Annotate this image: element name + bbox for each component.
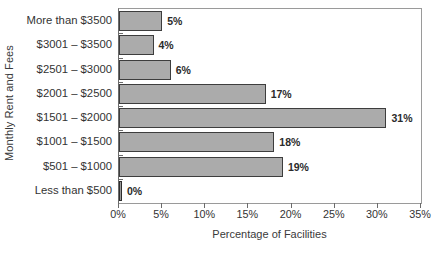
bar-value-label: 5% [167,11,182,31]
category-label: $1501 – $2000 [37,107,112,127]
x-axis-tick-label: 35% [409,208,431,220]
bar-value-label: 31% [391,108,412,128]
bar-value-label: 19% [288,157,309,177]
bar-value-label: 0% [127,181,142,201]
x-axis-tick-labels: 0%5%10%15%20%25%30%35% [118,208,421,224]
bar [119,157,283,177]
bar-value-label: 18% [279,132,300,152]
bar [119,84,266,104]
plot-area: 5%4%6%17%31%18%19%0% [119,9,421,203]
bar-value-label: 17% [271,84,292,104]
bar [119,108,386,128]
x-axis-tick-label: 0% [110,208,126,220]
y-axis-tick [119,179,123,180]
category-label: $3001 – $3500 [37,34,112,54]
x-axis-tick-label: 20% [280,208,302,220]
y-axis-tick [119,33,123,34]
category-label: $501 – $1000 [43,156,112,176]
x-axis-tick-label: 10% [193,208,215,220]
category-label: Less than $500 [35,180,112,200]
bar-value-label: 6% [176,60,191,80]
x-axis-title: Percentage of Facilities [118,228,421,240]
category-axis-labels: More than $3500$3001 – $3500$2501 – $300… [18,8,115,202]
bar [119,181,122,201]
y-axis-tick [119,155,123,156]
x-axis-tick-label: 30% [366,208,388,220]
plot-frame: 5%4%6%17%31%18%19%0% [118,8,422,204]
y-axis-tick [119,58,123,59]
bar [119,132,274,152]
x-axis-tick-label: 25% [323,208,345,220]
y-axis-title: Monthly Rent and Fees [0,0,18,205]
x-axis-tick-label: 5% [153,208,169,220]
bar-chart: Monthly Rent and Fees More than $3500$30… [0,0,442,255]
category-label: $1001 – $1500 [37,131,112,151]
y-axis-title-text: Monthly Rent and Fees [3,45,15,161]
category-label: $2001 – $2500 [37,83,112,103]
y-axis-tick [119,106,123,107]
bar [119,11,162,31]
category-label: More than $3500 [27,10,112,30]
bar [119,35,154,55]
category-label: $2501 – $3000 [37,59,112,79]
x-axis-tick-label: 15% [237,208,259,220]
y-axis-tick [119,130,123,131]
bar-value-label: 4% [159,35,174,55]
bar [119,60,171,80]
y-axis-tick [119,82,123,83]
